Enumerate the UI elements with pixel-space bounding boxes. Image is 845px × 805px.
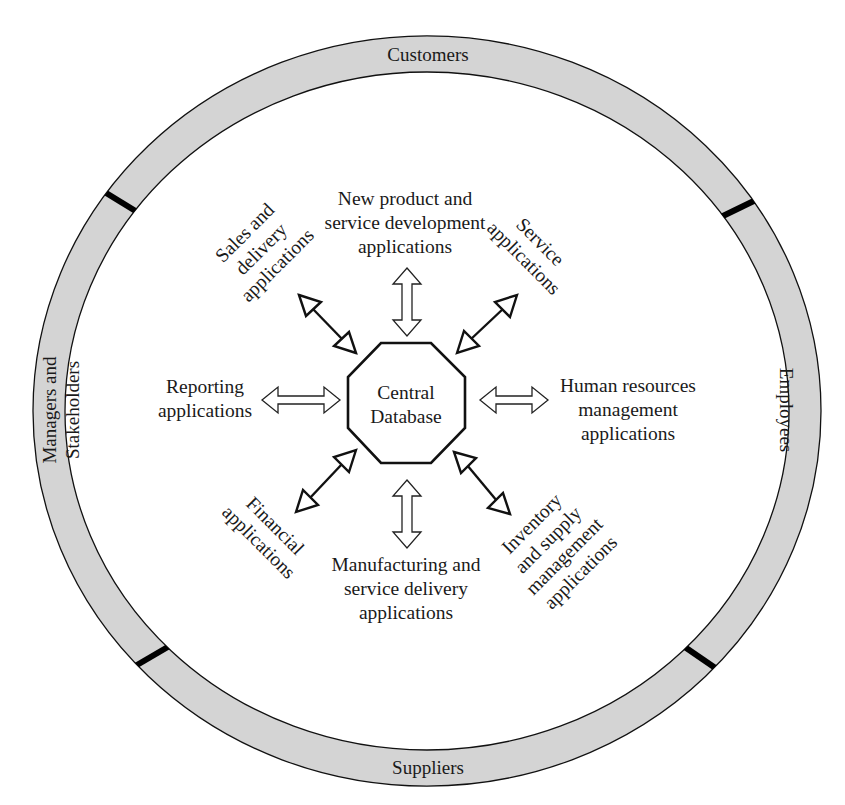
double-arrow-bottom-left-icon: [296, 450, 356, 512]
spoke-right-line2: management: [578, 399, 678, 420]
spoke-left-line1: Reporting: [166, 376, 244, 397]
spoke-right-line1: Human resources: [560, 375, 696, 396]
double-arrow-right-icon: [480, 387, 548, 413]
spoke-label-top-right: Service applications: [483, 201, 581, 299]
spoke-bottom-line1: Manufacturing and: [332, 554, 481, 575]
double-arrow-top-icon: [393, 268, 421, 336]
ring-label-suppliers: Suppliers: [392, 757, 464, 778]
spoke-label-right: Human resources management applications: [560, 375, 696, 444]
spoke-bottom-line2: service delivery: [344, 578, 468, 599]
spoke-label-top-left: Sales and delivery applications: [204, 192, 318, 306]
spoke-top-line2: service development: [325, 212, 486, 233]
spoke-right-line3: applications: [581, 423, 675, 444]
double-arrow-bottom-icon: [393, 480, 421, 548]
spoke-left-line2: applications: [158, 400, 252, 421]
double-arrow-left-icon: [262, 387, 340, 413]
central-database-hub: Central Database: [348, 343, 465, 463]
octagon-shape: [348, 343, 465, 463]
spoke-label-bottom-right: Inventory and supply management applicat…: [489, 481, 623, 615]
central-database-diagram: Customers Suppliers Employees Managers a…: [0, 0, 845, 805]
spoke-label-left: Reporting applications: [158, 376, 252, 421]
spoke-bottom-line3: applications: [359, 602, 453, 623]
hub-label-line1: Central: [377, 382, 435, 403]
ring-label-employees: Employees: [776, 368, 797, 452]
double-arrow-bottom-right-icon: [454, 452, 510, 514]
spoke-top-line3: applications: [358, 236, 452, 257]
spoke-top-line1: New product and: [338, 188, 473, 209]
spoke-label-top: New product and service development appl…: [325, 188, 486, 257]
double-arrow-top-right-icon: [457, 295, 517, 353]
hub-label-line2: Database: [370, 406, 441, 427]
ring-label-customers: Customers: [387, 44, 468, 65]
double-arrow-top-left-icon: [299, 295, 356, 353]
ring-label-managers-line2: Stakeholders: [62, 361, 83, 459]
spoke-label-bottom: Manufacturing and service delivery appli…: [332, 554, 481, 623]
ring-label-managers-line1: Managers and: [39, 356, 60, 464]
